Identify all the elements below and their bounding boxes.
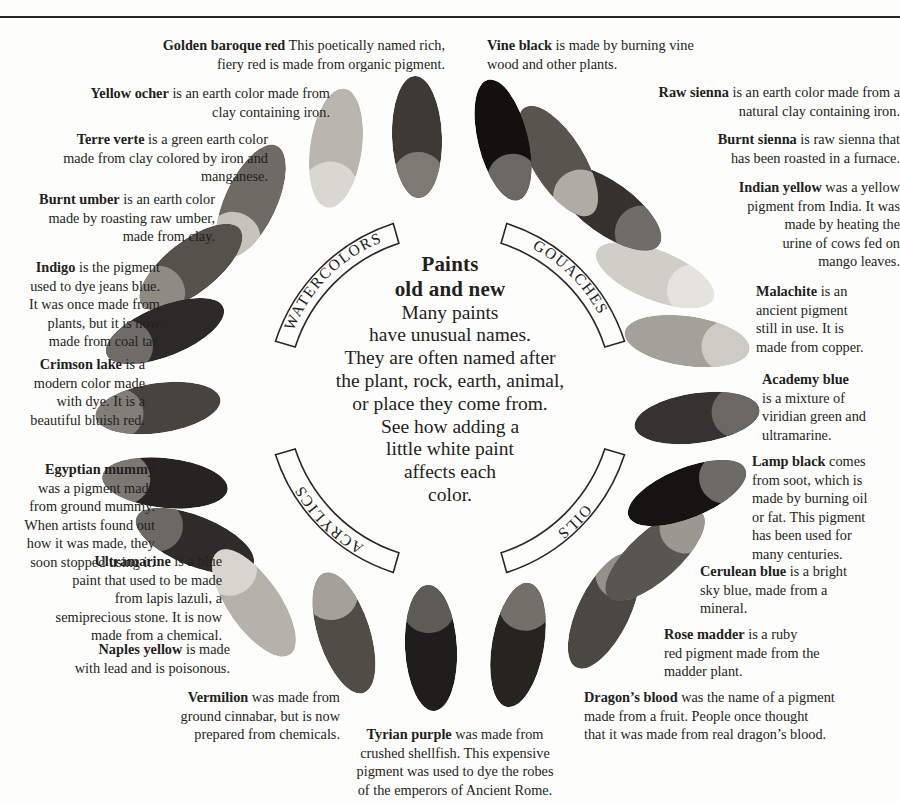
caption-cerulean-blue: Cerulean blue is a brightsky blue, made … — [700, 562, 900, 618]
paint-stroke-golden-baroque-red — [390, 75, 444, 199]
caption-dragons-blood: Dragon’s blood was the name of a pigment… — [584, 688, 900, 744]
paint-wheel-infographic: WATERCOLORS GOUACHES OILS ACRYLICS Paint… — [0, 0, 900, 803]
caption-ultramarine: Ultramarine is a bluepaint that used to … — [0, 552, 222, 645]
top-rule-divider — [0, 16, 900, 18]
caption-academy-blue: Academy blueis a mixture ofviridian gree… — [762, 370, 900, 444]
caption-vine-black: Vine black is made by burning vinewood a… — [487, 36, 817, 73]
caption-indian-yellow: Indian yellow was a yellowpigment from I… — [660, 178, 900, 271]
caption-golden-baroque-red: Golden baroque red This poetically named… — [110, 36, 445, 73]
caption-burnt-sienna: Burnt sienna is raw sienna thathas been … — [620, 130, 900, 167]
caption-rose-madder: Rose madder is a rubyred pigment made fr… — [664, 625, 900, 681]
caption-crimson-lake: Crimson lake is amodern color madewith d… — [0, 355, 145, 429]
caption-vermilion: Vermilion was made fromground cinnabar, … — [80, 688, 340, 744]
paint-stroke-tyrian-purple — [402, 584, 461, 713]
caption-burnt-umber: Burnt umber is an earth colormade by roa… — [0, 190, 215, 246]
caption-malachite: Malachite is anancient pigmentstill in u… — [756, 282, 900, 356]
center-body: Many paints have unusual names. They are… — [300, 302, 600, 507]
caption-terre-verte: Terre verte is a green earth colormade f… — [8, 130, 268, 186]
caption-naples-yellow: Naples yellow is madewith lead and is po… — [0, 640, 230, 677]
center-title-line1: Paints — [300, 252, 600, 277]
center-panel: Paints old and new Many paints have unus… — [300, 252, 600, 507]
caption-indigo: Indigo is the pigmentused to dye jeans b… — [0, 258, 160, 351]
caption-raw-sienna: Raw sienna is an earth color made from a… — [540, 83, 900, 120]
caption-tyrian-purple: Tyrian purple was made fromcrushed shell… — [320, 725, 590, 799]
ring-label-oils: OILS — [554, 502, 596, 544]
center-title-line2: old and new — [300, 277, 600, 302]
stroke-tint-area — [393, 151, 445, 199]
caption-lamp-black: Lamp black comesfrom soot, which ismade … — [752, 452, 900, 563]
caption-yellow-ocher: Yellow ocher is an earth color made from… — [40, 84, 330, 121]
